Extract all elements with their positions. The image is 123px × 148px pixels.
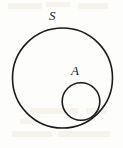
subset-label-a: A — [71, 64, 79, 77]
set-diagram-canvas — [0, 0, 123, 148]
subset-circle-a — [62, 83, 100, 121]
universe-label-s: S — [49, 9, 56, 22]
set-diagram-figure: S A — [0, 0, 123, 148]
universe-circle-s — [13, 28, 113, 128]
